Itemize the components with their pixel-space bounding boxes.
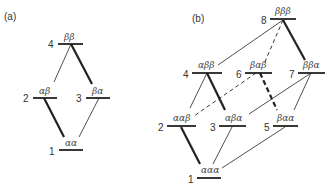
level-number: 7: [289, 69, 295, 80]
level-state: αβ: [39, 86, 50, 96]
level-state: βαβ: [249, 60, 266, 70]
level-state: αββ: [198, 60, 214, 70]
level-number: 2: [158, 122, 164, 133]
level-number: 4: [183, 69, 189, 80]
transition-line: [79, 98, 99, 137]
transition-line-dashed-bold: [260, 73, 277, 110]
transition-line-bold: [71, 44, 92, 84]
transition-line: [213, 127, 232, 164]
level-state: ββ: [63, 32, 74, 42]
level-state: βαα: [276, 113, 294, 123]
panel-b: (b) 8 βββ 4 αββ 6 βαβ 7 ββα 2 ααβ 3 αβα: [158, 6, 325, 185]
transition-line: [54, 44, 71, 82]
level-number: 5: [264, 122, 270, 133]
level-state: βα: [91, 86, 103, 96]
level-number: 4: [48, 39, 54, 50]
level-number: 8: [261, 15, 267, 26]
transition-line-bold: [207, 73, 225, 110]
level-state: αβα: [225, 113, 242, 123]
level-number: 6: [236, 69, 242, 80]
level-number: 1: [188, 174, 194, 185]
transition-line: [190, 73, 207, 108]
level-state: βββ: [274, 6, 291, 16]
level-state: ααβ: [173, 113, 190, 123]
panel-b-label: (b): [192, 13, 204, 24]
level-state: αα: [65, 138, 77, 148]
level-state: ββα: [302, 60, 319, 70]
panel-a-label: (a): [4, 11, 16, 22]
energy-level-diagram: (a) 4 ββ 2 αβ 3 βα 1 αα (b): [0, 0, 330, 186]
level-number: 2: [23, 93, 29, 104]
level-number: 1: [49, 146, 55, 157]
level-number: 3: [210, 122, 216, 133]
transition-line-bold: [44, 98, 64, 137]
level-number: 3: [76, 93, 82, 104]
transition-line: [222, 127, 285, 168]
panel-a: (a) 4 ββ 2 αβ 3 βα 1 αα: [4, 11, 110, 157]
level-state: ααα: [201, 165, 219, 175]
transition-line-bold: [181, 127, 200, 164]
transition-line-bold: [283, 20, 305, 60]
